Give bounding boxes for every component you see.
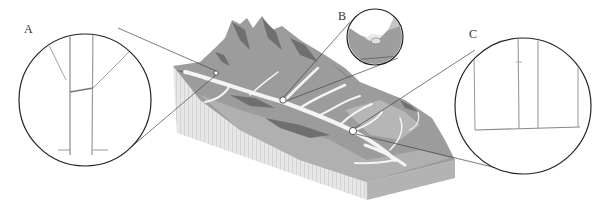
marker-b — [280, 97, 286, 103]
terrain-block — [173, 16, 455, 200]
magnified-circle-c — [455, 27, 591, 174]
label-a: A — [24, 22, 33, 36]
magnified-circle-b — [345, 9, 405, 70]
magnified-circle-a — [19, 20, 151, 166]
marker-c — [349, 127, 356, 134]
label-c: C — [469, 27, 477, 41]
label-b: B — [338, 9, 346, 23]
landscape-block-diagram: A B C — [0, 0, 604, 211]
marker-a — [214, 71, 218, 75]
